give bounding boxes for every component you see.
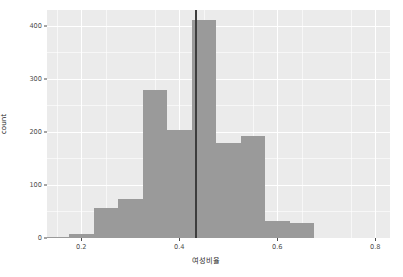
gridline-horizontal-minor xyxy=(47,105,390,106)
gridline-vertical xyxy=(81,10,82,238)
histogram-bar xyxy=(216,143,241,238)
histogram-bar xyxy=(118,199,143,238)
y-axis-tick-label: 200 xyxy=(29,128,42,136)
plot-panel xyxy=(47,10,390,238)
gridline-horizontal xyxy=(47,79,390,80)
x-axis-tick-mark xyxy=(179,238,180,241)
histogram-bar xyxy=(69,234,94,238)
x-axis-tick-label: 0.6 xyxy=(272,243,283,251)
histogram-bar xyxy=(47,237,69,238)
gridline-vertical-minor xyxy=(57,10,58,238)
x-axis-tick-label: 0.8 xyxy=(370,243,381,251)
y-axis-title: count xyxy=(0,114,8,134)
gridline-horizontal-minor xyxy=(47,52,390,53)
y-axis-tick-label: 300 xyxy=(29,75,42,83)
gridline-horizontal xyxy=(47,26,390,27)
gridline-vertical-minor xyxy=(302,10,303,238)
gridline-vertical xyxy=(277,10,278,238)
gridline-vertical-minor xyxy=(351,10,352,238)
histogram-bar xyxy=(143,90,168,238)
x-axis-tick-mark xyxy=(81,238,82,241)
gridline-vertical-minor xyxy=(106,10,107,238)
gridline-horizontal xyxy=(47,132,390,133)
x-axis-tick-label: 0.4 xyxy=(174,243,185,251)
histogram-bar xyxy=(167,130,192,238)
y-axis-tick-label: 0 xyxy=(38,234,42,242)
y-axis-tick-label: 400 xyxy=(29,22,42,30)
x-axis-tick-label: 0.2 xyxy=(76,243,87,251)
histogram-chart: count 여성비율 0100200300400 0.20.40.60.8 xyxy=(0,0,403,277)
x-axis-tick-mark xyxy=(277,238,278,241)
reference-line xyxy=(195,10,196,238)
histogram-bar xyxy=(94,208,119,238)
histogram-bar xyxy=(241,136,266,238)
x-axis-tick-mark xyxy=(375,238,376,241)
histogram-bar xyxy=(290,223,315,238)
y-axis-tick-label: 100 xyxy=(29,181,42,189)
x-axis-title: 여성비율 xyxy=(192,255,220,265)
histogram-bar xyxy=(265,221,290,238)
gridline-vertical xyxy=(375,10,376,238)
